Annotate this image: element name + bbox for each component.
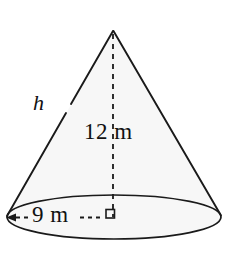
radius-label: 9 m (32, 203, 69, 226)
cone-figure: h 12 m 9 m (0, 0, 245, 253)
slant-height-label: h (33, 92, 44, 114)
height-label: 12 m (84, 120, 133, 143)
